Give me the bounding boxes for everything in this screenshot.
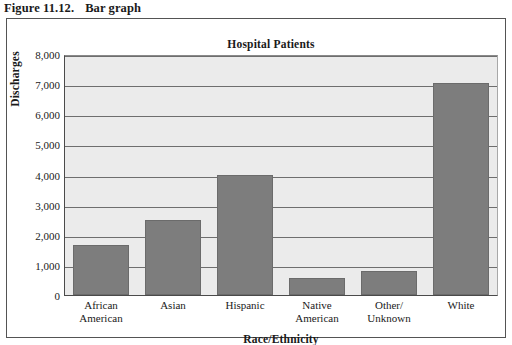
y-axis-tick-labels: 01,0002,0003,0004,0005,0006,0007,0008,00… <box>7 55 60 296</box>
figure-caption-text: Bar graph <box>85 1 141 15</box>
bar <box>145 220 201 295</box>
x-tick-label-line: American <box>281 312 353 325</box>
x-tick-label-line: Other/ <box>353 299 425 312</box>
x-tick-label: Asian <box>137 299 209 312</box>
figure-frame: Hospital Patients Discharges 01,0002,000… <box>6 18 506 338</box>
y-tick-label: 6,000 <box>8 109 60 121</box>
bar <box>289 278 345 295</box>
y-tick-label: 7,000 <box>8 79 60 91</box>
bar <box>433 83 489 295</box>
y-tick-label: 1,000 <box>8 260 60 272</box>
x-tick-label-line: Hispanic <box>209 299 281 312</box>
x-tick-label: Other/Unknown <box>353 299 425 324</box>
y-tick-label: 3,000 <box>8 200 60 212</box>
y-tick-label: 2,000 <box>8 230 60 242</box>
y-tick-label: 4,000 <box>8 170 60 182</box>
x-tick-label: AfricanAmerican <box>65 299 137 324</box>
x-tick-label: Hispanic <box>209 299 281 312</box>
x-axis-tick-labels: AfricanAmericanAsianHispanicNativeAmeric… <box>65 299 497 333</box>
x-axis-title: Race/Ethnicity <box>64 333 498 345</box>
bar <box>361 271 417 295</box>
y-tick-label: 0 <box>8 290 60 302</box>
x-tick-label: White <box>425 299 497 312</box>
x-tick-label-line: American <box>65 312 137 325</box>
bar <box>73 245 129 295</box>
x-tick-label-line: Unknown <box>353 312 425 325</box>
x-tick-label-line: White <box>425 299 497 312</box>
x-tick-label-line: Asian <box>137 299 209 312</box>
y-tick-label: 5,000 <box>8 139 60 151</box>
y-tick-label: 8,000 <box>8 49 60 61</box>
bar <box>217 175 273 295</box>
bars-layer <box>65 55 497 295</box>
figure-number: Figure 11.12. <box>4 1 74 15</box>
chart-title: Hospital Patients <box>7 38 505 50</box>
x-tick-label: NativeAmerican <box>281 299 353 324</box>
x-tick-label-line: Native <box>281 299 353 312</box>
figure-caption: Figure 11.12.Bar graph <box>4 1 141 16</box>
x-tick-label-line: African <box>65 299 137 312</box>
